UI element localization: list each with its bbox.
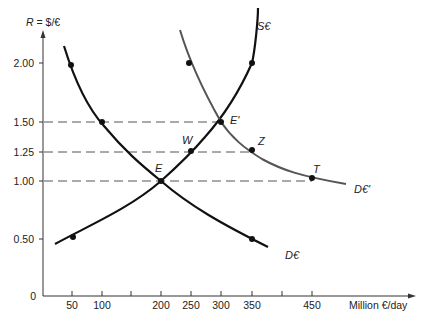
x-tick-label-100: 100 (93, 299, 111, 311)
x-axis-title: Million €/day (349, 299, 408, 311)
data-points (68, 60, 315, 242)
curve-d-euro (64, 46, 268, 247)
reference-lines (44, 122, 312, 181)
x-axis-arrow-icon (408, 294, 416, 299)
x-tick-label-250: 250 (182, 299, 200, 311)
curve-label-s-euro: S€ (257, 20, 271, 32)
y-tick-label-2-00: 2.00 (14, 57, 35, 69)
y-axis-title: R = $/€ (26, 16, 60, 28)
curve-label-d-euro: D€ (285, 249, 300, 261)
point-label-t: T (313, 163, 321, 175)
point-label-e: E (155, 162, 163, 174)
y-tick-label-1-00: 1.00 (14, 175, 35, 187)
point-label-z: Z (257, 135, 266, 147)
point-label-w: W (182, 134, 194, 146)
y-tick-label-1-25: 1.25 (14, 146, 35, 158)
curve-label-d-euro-prime: D€' (354, 183, 371, 195)
origin-label: 0 (30, 290, 36, 302)
y-tick-label-0-50: 0.50 (14, 233, 35, 245)
x-tick-label-300: 300 (212, 299, 230, 311)
x-tick-label-450: 450 (303, 299, 321, 311)
curve-s-euro (55, 8, 258, 244)
x-ticks (72, 291, 312, 296)
x-tick-label-350: 350 (243, 299, 261, 311)
x-tick-label-200: 200 (152, 299, 170, 311)
point-label-e-prime: E' (230, 114, 240, 126)
y-ticks (39, 63, 43, 239)
y-tick-label-1-50: 1.50 (14, 116, 35, 128)
curve-d-euro-prime (180, 30, 346, 184)
x-tick-label-50: 50 (66, 299, 78, 311)
exchange-rate-chart: 2.00 1.50 1.25 1.00 0.50 0 50 100 200 25… (0, 0, 424, 326)
y-axis-arrow-icon (41, 30, 46, 38)
